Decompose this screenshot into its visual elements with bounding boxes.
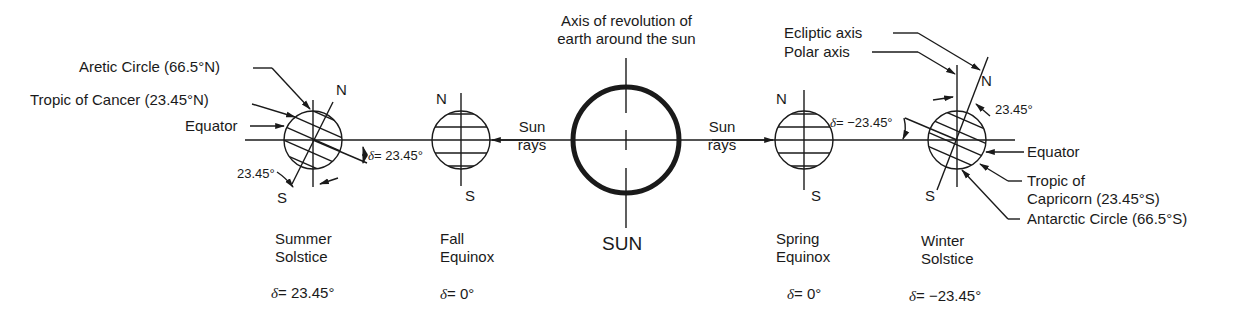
polar-axis-label: Polar axis [784, 43, 850, 61]
caption-line1: Winter [921, 232, 974, 250]
delta-symbol: δ [787, 286, 794, 302]
delta-value: = 0° [794, 285, 821, 302]
spring-equinox-caption: Spring Equinox [776, 230, 830, 266]
spring-north-label: N [776, 90, 787, 108]
delta-value: = 0° [447, 285, 474, 302]
capricorn-line2: Capricorn (23.45°S) [1027, 190, 1160, 208]
winter-earth [900, 57, 1010, 196]
caption-line2: Equinox [776, 248, 830, 266]
declination-right-label: δ= −23.45° [830, 115, 893, 130]
summer-north-label: N [336, 81, 347, 99]
equator-left-label: Equator [185, 117, 238, 135]
fall-equinox-caption: Fall Equinox [440, 230, 494, 266]
delta-symbol: δ [909, 288, 916, 304]
sun-rays-left-line2: rays [512, 136, 552, 154]
tilt-right-label: 23.45° [995, 102, 1033, 117]
diagram-canvas [0, 0, 1245, 322]
ecliptic-axis-label: Ecliptic axis [784, 24, 862, 42]
spring-declination: δ= 0° [787, 285, 821, 303]
summer-declination: δ= 23.45° [271, 284, 334, 302]
arctic-circle-label: Aretic Circle (66.5°N) [79, 58, 220, 76]
summer-solstice-caption: Summer Solstice [275, 230, 332, 266]
summer-earth [270, 92, 370, 192]
spring-south-label: S [811, 187, 821, 205]
sun-rays-left-label: Sun rays [512, 118, 552, 154]
delta-value: = 23.45° [374, 148, 423, 163]
revolution-axis-label-line2: earth around the sun [534, 30, 719, 48]
winter-declination: δ= −23.45° [909, 287, 981, 305]
revolution-axis-label: Axis of revolution of earth around the s… [534, 12, 719, 48]
tropic-of-capricorn-label: Tropic of Capricorn (23.45°S) [1027, 172, 1160, 208]
capricorn-line1: Tropic of [1027, 172, 1160, 190]
winter-north-label: N [981, 72, 992, 90]
delta-value: = −23.45° [916, 287, 981, 304]
caption-line2: Solstice [921, 250, 974, 268]
delta-value: = −23.45° [836, 115, 893, 130]
caption-line2: Equinox [440, 248, 494, 266]
sun-label: SUN [602, 233, 642, 255]
delta-symbol: δ [440, 286, 447, 302]
sun-rays-left-line1: Sun [512, 118, 552, 136]
sun-rays-right-line2: rays [702, 136, 742, 154]
fall-declination: δ= 0° [440, 285, 474, 303]
fall-north-label: N [436, 90, 447, 108]
tilt-left-label: 23.45° [237, 166, 275, 181]
equator-right-label: Equator [1027, 143, 1080, 161]
winter-solstice-caption: Winter Solstice [921, 232, 974, 268]
sun-rays-right-line1: Sun [702, 118, 742, 136]
fall-south-label: S [465, 187, 475, 205]
antarctic-circle-label: Antarctic Circle (66.5°S) [1027, 210, 1187, 228]
summer-south-label: S [277, 189, 287, 207]
sun-rays-right-label: Sun rays [702, 118, 742, 154]
tropic-of-cancer-label: Tropic of Cancer (23.45°N) [30, 91, 209, 109]
caption-line1: Spring [776, 230, 830, 248]
caption-line2: Solstice [275, 248, 332, 266]
revolution-axis-label-line1: Axis of revolution of [534, 12, 719, 30]
delta-value: = 23.45° [278, 284, 334, 301]
caption-line1: Fall [440, 230, 494, 248]
delta-symbol: δ [271, 285, 278, 301]
caption-line1: Summer [275, 230, 332, 248]
declination-left-label: δ= 23.45° [368, 148, 423, 163]
winter-south-label: S [925, 187, 935, 205]
